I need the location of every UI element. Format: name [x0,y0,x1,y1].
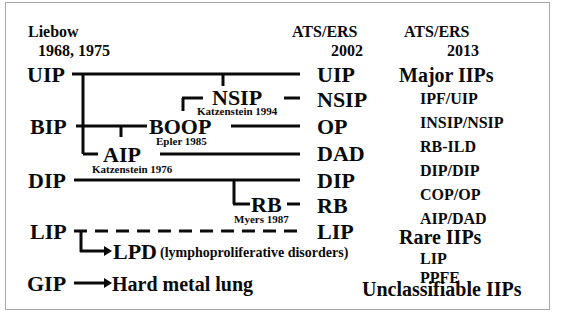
major-iip-3: RB-ILD [420,139,476,155]
major-iips-heading: Major IIPs [399,65,494,85]
liebow-bip: BIP [30,116,67,138]
ats2002-nsip: NSIP [317,89,367,111]
ats2002-uip: UIP [317,64,355,86]
ats2002-dip: DIP [317,170,355,192]
ats2002-op: OP [317,116,348,138]
ats2002-header: ATS/ERS [292,24,358,40]
ats2013-header: ATS/ERS [404,24,470,40]
major-iip-4: DIP/DIP [420,163,480,179]
ats2002-dad: DAD [317,143,365,165]
lpd-label: LPD [113,241,157,263]
liebow-header: Liebow [28,24,79,40]
liebow-lip: LIP [30,221,67,243]
major-iip-5: COP/OP [420,187,480,203]
major-iip-6: AIP/DAD [420,211,487,227]
boop-citation: Epler 1985 [156,136,207,147]
lpd-note: (lymphoproliferative disorders) [160,246,348,260]
unclassifiable-iips: Unclassifiable IIPs [362,279,521,299]
major-iip-2: INSIP/NSIP [420,115,504,131]
ats2002-year: 2002 [331,43,363,59]
ats2002-rb: RB [317,195,348,217]
rare-iip-1: LIP [420,251,447,267]
rare-iips-heading: Rare IIPs [399,227,481,247]
ats2013-year: 2013 [447,43,479,59]
liebow-uip: UIP [27,64,65,86]
hard-metal-lung: Hard metal lung [112,274,253,294]
liebow-gip: GIP [27,273,66,295]
rb-citation: Myers 1987 [234,214,289,225]
ats2002-lip: LIP [317,221,354,243]
aip-citation: Katzenstein 1976 [92,164,172,175]
major-iip-1: IPF/UIP [420,91,478,107]
liebow-years: 1968, 1975 [38,43,110,59]
liebow-dip: DIP [28,170,66,192]
